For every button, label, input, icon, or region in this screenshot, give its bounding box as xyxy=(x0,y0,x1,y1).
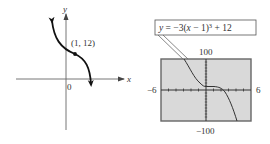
calculator-graph: y = −3(x − 1)3 + 12 100 xyxy=(147,20,261,136)
left-sketch-graph: x y 0 (1, 12) xyxy=(16,4,131,130)
ymax-label: 100 xyxy=(199,47,213,57)
x-axis-label: x xyxy=(126,74,131,84)
callout-pointer-line xyxy=(158,35,186,62)
point-1-12 xyxy=(73,52,77,56)
origin-label: 0 xyxy=(67,82,72,92)
point-label: (1, 12) xyxy=(71,38,95,48)
cubic-curve xyxy=(52,21,91,84)
xmax-label: 6 xyxy=(256,85,261,95)
y-axis-label: y xyxy=(62,4,67,14)
callout-pointer-line xyxy=(163,35,189,60)
ymin-label: −100 xyxy=(196,126,215,136)
figure: x y 0 (1, 12) y = −3(x − 1)3 + 12 100 xyxy=(0,0,270,144)
xmin-label: −6 xyxy=(147,85,157,95)
equation-label: y = −3(x − 1)3 + 12 xyxy=(158,22,232,35)
